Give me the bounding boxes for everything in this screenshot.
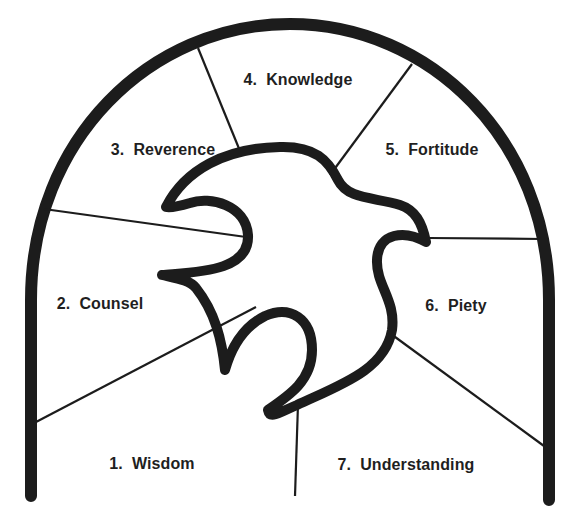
dove-icon [162, 147, 426, 415]
gifts-arch-diagram: 1. Wisdom 2. Counsel 3. Reverence 4. Kno… [0, 0, 581, 511]
divider-wisdom-understanding [295, 404, 298, 496]
divider-reverence-counsel [44, 209, 246, 237]
segment-label-understanding: 7. Understanding [338, 456, 475, 474]
segment-label-reverence: 3. Reverence [111, 141, 215, 159]
divider-reverence-knowledge [198, 48, 240, 151]
segment-label-piety: 6. Piety [425, 297, 486, 315]
divider-piety-understanding [391, 334, 544, 446]
segment-label-wisdom: 1. Wisdom [109, 455, 194, 473]
arch-outline [31, 24, 549, 500]
segment-dividers [36, 48, 544, 496]
segment-label-fortitude: 5. Fortitude [386, 141, 479, 159]
segment-label-counsel: 2. Counsel [57, 295, 143, 313]
divider-fortitude-piety [428, 238, 543, 239]
segment-label-knowledge: 4. Knowledge [244, 71, 353, 89]
